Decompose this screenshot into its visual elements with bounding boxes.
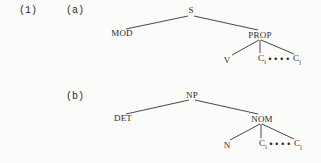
node-nom: NOM <box>251 115 273 124</box>
node-np: NP <box>186 91 198 100</box>
node-c-j: Cj <box>293 54 301 67</box>
edge-s-mod <box>126 16 188 29</box>
node-c-j: Cj <box>294 139 302 152</box>
edge-prop-v <box>232 40 259 55</box>
tree-edges <box>0 0 321 163</box>
node-v: V <box>224 56 231 65</box>
node-n: N <box>224 141 231 150</box>
node-c-i: Ci <box>259 139 267 152</box>
node-s: S <box>188 6 193 15</box>
node-c-i: Ci <box>258 54 266 67</box>
ellipsis: •••• <box>267 55 291 65</box>
edge-prop-cj <box>261 40 294 54</box>
ellipsis: •••• <box>268 140 292 150</box>
node-prop: PROP <box>248 31 271 40</box>
edge-np-det <box>126 100 189 114</box>
tree-label-a: (a) <box>66 6 84 16</box>
c-subscript: i <box>265 144 267 150</box>
c-subscript: j <box>299 59 301 65</box>
edge-nom-cj <box>262 124 294 139</box>
c-subscript: j <box>300 144 302 150</box>
edge-nom-n <box>230 124 260 140</box>
tree-label-b: (b) <box>66 92 84 102</box>
edge-s-prop <box>194 16 258 30</box>
node-mod: MOD <box>111 29 133 38</box>
example-number: (1) <box>19 6 37 16</box>
c-subscript: i <box>264 59 266 65</box>
edge-np-nom <box>195 100 258 114</box>
node-det: DET <box>114 114 132 123</box>
